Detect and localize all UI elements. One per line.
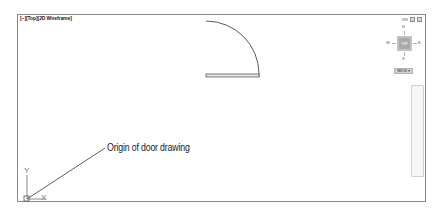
ucs-x-label: X	[41, 193, 46, 202]
door-swing-arc	[206, 21, 259, 74]
door-leaf	[206, 74, 259, 77]
annotation-leader-line	[27, 148, 105, 199]
ucs-y-label: Y	[24, 166, 29, 175]
drawing-viewport[interactable]: [−][Top][2D Wireframe] N W TOP E S WCS ▾	[17, 14, 426, 202]
door-drawing	[18, 15, 427, 203]
origin-annotation-text: Origin of door drawing	[107, 142, 190, 153]
